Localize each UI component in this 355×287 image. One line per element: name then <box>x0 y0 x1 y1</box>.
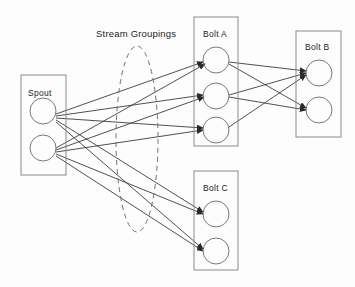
edges-layer <box>56 62 306 251</box>
annotation-stream-groupings: Stream Groupings <box>96 28 176 39</box>
edge-spout-node-2-to-bolt-c-node-1 <box>56 154 203 214</box>
spout-node-2[interactable] <box>30 135 56 161</box>
bolt-c-label: Bolt C <box>203 183 228 193</box>
edge-bolt-a-node-2-to-bolt-b-node-1 <box>229 73 306 95</box>
bolt-a-node-1[interactable] <box>203 47 229 73</box>
bolt-b-label: Bolt B <box>305 42 330 52</box>
bolt-b-node-2[interactable] <box>306 97 332 123</box>
bolt-a-node-2[interactable] <box>203 83 229 109</box>
stream-grouping-ellipse <box>116 46 158 232</box>
topology-canvas: SpoutBolt ABolt BBolt C Stream Groupings <box>0 0 355 287</box>
topology-diagram: SpoutBolt ABolt BBolt C Stream Groupings <box>0 0 355 287</box>
edge-spout-node-1-to-bolt-c-node-1 <box>56 120 203 212</box>
stream-grouping-layer <box>116 46 158 232</box>
annotations-layer: Stream Groupings <box>96 28 176 39</box>
spout-label: Spout <box>28 88 52 98</box>
bolt-a-node-3[interactable] <box>203 117 229 143</box>
edge-spout-node-2-to-bolt-c-node-2 <box>56 156 203 251</box>
edge-bolt-a-node-1-to-bolt-b-node-1 <box>229 62 306 71</box>
edge-spout-node-1-to-bolt-a-node-3 <box>56 118 203 128</box>
bolt-c-node-2[interactable] <box>203 238 229 264</box>
edge-spout-node-2-to-bolt-a-node-2 <box>56 97 204 150</box>
group-bolt-b[interactable]: Bolt B <box>296 31 341 137</box>
spout-node-1[interactable] <box>30 98 56 124</box>
bolt-b-node-1[interactable] <box>306 60 332 86</box>
bolt-c-node-1[interactable] <box>203 201 229 227</box>
groups-layer: SpoutBolt ABolt BBolt C <box>21 17 341 270</box>
group-bolt-a[interactable]: Bolt A <box>194 17 238 146</box>
bolt-a-label: Bolt A <box>203 29 227 39</box>
group-bolt-c[interactable]: Bolt C <box>194 171 238 270</box>
edge-bolt-a-node-2-to-bolt-b-node-2 <box>229 97 306 110</box>
